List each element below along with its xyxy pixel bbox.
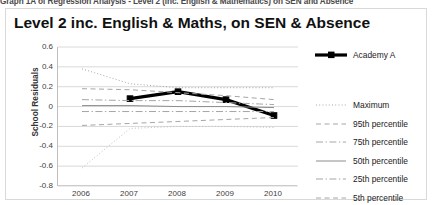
series-marker xyxy=(223,97,229,103)
series-line xyxy=(82,117,274,125)
series-line xyxy=(82,100,274,105)
legend-swatch-icon xyxy=(314,174,348,184)
legend-item[interactable]: 5th percentile xyxy=(314,189,432,205)
legend-item-label: 25th percentile xyxy=(353,174,408,184)
legend-item[interactable]: 75th percentile xyxy=(314,133,432,152)
legend-swatch-icon xyxy=(314,156,348,166)
legend-item[interactable]: 25th percentile xyxy=(314,170,432,189)
y-tick-label: -0.4 xyxy=(23,141,53,150)
legend-item[interactable]: Maximum xyxy=(314,96,432,115)
legend-item-label: 50th percentile xyxy=(353,156,408,166)
plot-svg xyxy=(58,47,298,186)
series-marker xyxy=(175,89,181,95)
y-tick-label: -0.8 xyxy=(23,181,53,190)
y-tick-label: 0.6 xyxy=(23,42,53,51)
legend-spacer xyxy=(314,67,432,96)
y-tick-label: 0 xyxy=(23,102,53,111)
legend-item[interactable]: 95th percentile xyxy=(314,115,432,134)
y-tick-label: -0.2 xyxy=(23,121,53,130)
plot-area xyxy=(57,47,297,186)
series-line xyxy=(82,126,274,168)
x-tick-label: 2006 xyxy=(55,189,107,198)
legend-item-label: 5th percentile xyxy=(353,193,403,203)
legend-item-label: Academy A xyxy=(353,50,395,60)
x-tick-label: 2009 xyxy=(199,189,251,198)
series-line xyxy=(82,69,274,88)
y-tick-label: 0.2 xyxy=(23,82,53,91)
legend-item-label: 95th percentile xyxy=(353,119,408,129)
y-tick-label: -0.6 xyxy=(23,161,53,170)
x-tick-label: 2008 xyxy=(151,189,203,198)
chart-screenshot: Graph 1A of Regression Analysis - Level … xyxy=(0,0,432,204)
legend-swatch-icon xyxy=(314,119,348,129)
legend-item[interactable]: Academy A xyxy=(314,43,432,67)
legend-item-label: Maximum xyxy=(353,100,389,110)
chart-frame: Level 2 inc. English & Maths, on SEN & A… xyxy=(5,8,427,200)
legend-item[interactable]: 50th percentile xyxy=(314,152,432,171)
legend-swatch-icon xyxy=(314,137,348,147)
legend-swatch-icon xyxy=(314,193,348,203)
legend-swatch-icon xyxy=(314,100,348,110)
chart-title: Level 2 inc. English & Maths, on SEN & A… xyxy=(14,14,314,32)
legend-swatch-icon xyxy=(314,50,348,60)
chart-legend: Academy AMaximum95th percentile75th perc… xyxy=(314,43,432,204)
document-caption: Graph 1A of Regression Analysis - Level … xyxy=(0,0,432,8)
y-tick-label: 0.4 xyxy=(23,62,53,71)
x-tick-label: 2010 xyxy=(247,189,299,198)
legend-item-label: 75th percentile xyxy=(353,137,408,147)
x-tick-label: 2007 xyxy=(103,189,155,198)
